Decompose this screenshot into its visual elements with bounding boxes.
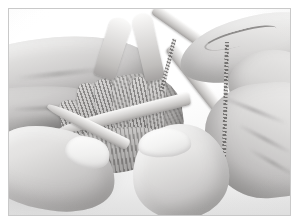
screenshot-stage — [0, 0, 299, 224]
photograph — [9, 9, 290, 215]
photo-frame — [8, 8, 291, 216]
